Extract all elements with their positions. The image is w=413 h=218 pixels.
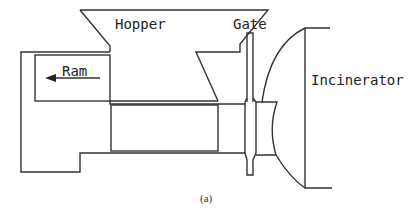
ram-label: Ram xyxy=(62,63,87,79)
figure-caption: (a) xyxy=(200,192,213,205)
gate: Gate xyxy=(233,16,267,175)
incinerator-label: Incinerator xyxy=(311,72,404,88)
incinerator-throat xyxy=(256,102,277,155)
ram: Ram xyxy=(35,55,110,101)
arrow-left-icon xyxy=(45,74,56,82)
feed-chamber xyxy=(111,105,218,151)
incinerator: Incinerator xyxy=(262,28,404,188)
ram-feeder-diagram: Hopper Ram Gate Incinerator (a) xyxy=(0,0,413,218)
gate-label: Gate xyxy=(233,16,267,32)
hopper-label: Hopper xyxy=(115,16,166,32)
ram-housing xyxy=(21,52,245,172)
